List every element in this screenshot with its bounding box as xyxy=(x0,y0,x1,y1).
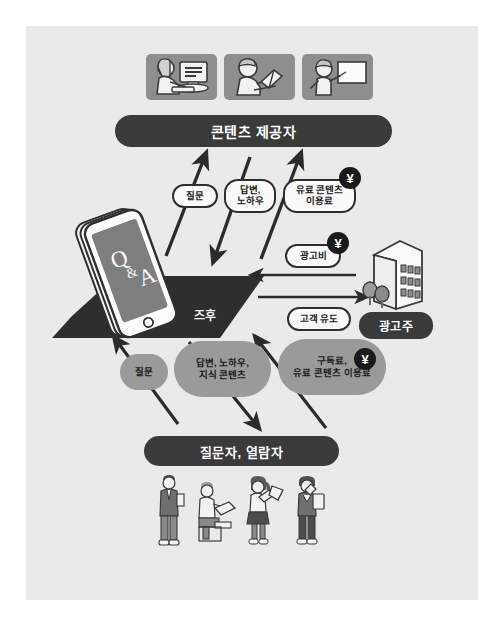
advertiser-building xyxy=(360,231,434,313)
office-building-icon xyxy=(360,231,434,313)
yen-badge-content-fee: ¥ xyxy=(339,167,361,189)
label-question-lower: 질문 xyxy=(120,354,168,390)
diagram-canvas: 콘텐츠 제공자 질문 답변, 노하우 유료 콘텐츠 이용료 xyxy=(26,26,478,600)
label-subscription-fee-line1: 구독료, xyxy=(317,355,347,367)
label-question-lower-text: 질문 xyxy=(135,366,153,378)
yen-badge-subscription: ¥ xyxy=(354,348,376,370)
label-ad-fee-text: 광고비 xyxy=(300,251,327,262)
label-answer-upper: 답변, 노하우 xyxy=(224,179,276,213)
smartphone: Q & A xyxy=(74,202,184,342)
readers-bar: 질문자, 열람자 xyxy=(144,436,339,466)
person-woman-with-papers-icon xyxy=(247,476,283,544)
label-answer-lower-line1: 답변, 노하우, xyxy=(196,357,249,369)
label-question-upper-text: 질문 xyxy=(186,191,204,202)
label-content-fee-line2: 이용료 xyxy=(306,196,333,207)
label-answer-lower: 답변, 노하우, 지식 콘텐츠 xyxy=(174,341,271,397)
readers-label: 질문자, 열람자 xyxy=(200,442,283,461)
platform-label: 즈후 xyxy=(194,306,216,323)
label-customer-lead: 고객 유도 xyxy=(287,307,351,331)
advertiser-label: 광고주 xyxy=(379,317,414,334)
readers-people-group xyxy=(151,474,341,550)
label-answer-lower-line2: 지식 콘텐츠 xyxy=(199,369,247,381)
yen-symbol-3: ¥ xyxy=(361,352,368,367)
person-with-documents-icon xyxy=(297,476,324,544)
label-customer-lead-text: 고객 유도 xyxy=(300,314,339,325)
yen-symbol: ¥ xyxy=(346,171,353,186)
yen-symbol-2: ¥ xyxy=(334,236,341,251)
smartphone-icon: Q & A xyxy=(74,202,184,342)
person-sitting-reading-icon xyxy=(199,482,235,541)
platform-label-text: 즈후 xyxy=(194,309,216,323)
label-answer-upper-line2: 노하우 xyxy=(237,196,264,207)
person-standing-suit-icon xyxy=(159,475,184,545)
people-icons xyxy=(151,474,341,550)
yen-badge-ad-fee: ¥ xyxy=(327,232,349,254)
advertiser-bar: 광고주 xyxy=(359,312,433,339)
